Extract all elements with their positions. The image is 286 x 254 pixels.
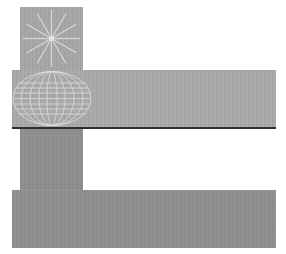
wireframe-sphere-icon [12,70,102,127]
middle-band-block [12,70,276,129]
bottom-band-block [12,190,276,248]
texture [12,190,276,248]
stem-block [20,129,83,190]
starburst-icon [20,7,83,70]
top-square-block [20,7,83,70]
texture [20,129,83,190]
